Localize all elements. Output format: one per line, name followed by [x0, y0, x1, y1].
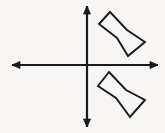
figure-canvas: Coordinate axes with two chevron polygon…: [0, 0, 165, 133]
coordinate-plane-diagram: [0, 0, 165, 133]
diagram-background: [0, 0, 165, 133]
